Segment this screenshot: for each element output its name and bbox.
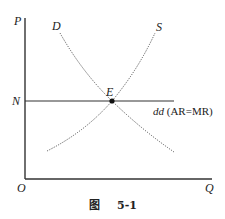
demand-curve (60, 33, 174, 152)
equilibrium-point (109, 98, 114, 103)
dd-curve-label: dd (AR=MR) (153, 105, 213, 118)
figure-caption-number: 5-1 (117, 199, 137, 212)
market-equilibrium-diagram: P N O Q D S E dd (AR=MR) 图 5-1 (0, 0, 225, 219)
x-axis-label: Q (205, 181, 214, 195)
supply-label: S (156, 20, 162, 34)
equilibrium-label: E (105, 85, 114, 99)
origin-label: O (17, 181, 26, 195)
demand-label: D (51, 19, 61, 33)
supply-curve (47, 33, 155, 151)
dd-ar-mr: (AR=MR) (164, 105, 213, 118)
figure-caption-prefix: 图 (89, 199, 100, 212)
price-level-label: N (11, 94, 21, 108)
dd-italic: dd (153, 105, 165, 117)
y-axis-label: P (13, 14, 22, 28)
